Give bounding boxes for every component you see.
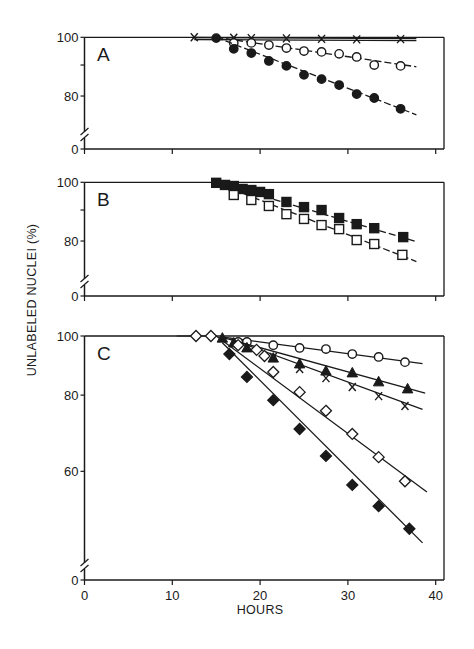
- data-point: [264, 201, 273, 210]
- x-tick-label: 30: [341, 588, 355, 603]
- data-point: [224, 349, 235, 360]
- data-point: [282, 44, 290, 52]
- y-tick-label: 100: [57, 30, 79, 45]
- data-point: [396, 105, 404, 113]
- data-point: [264, 190, 273, 199]
- data-point: [370, 94, 378, 102]
- x-tick-label: 40: [428, 588, 442, 603]
- x-tick-label: 20: [253, 588, 267, 603]
- data-point: [401, 358, 409, 366]
- series-open-diamond: [177, 331, 427, 492]
- data-point: [317, 221, 326, 230]
- data-point: [370, 224, 379, 233]
- data-point: [374, 353, 382, 361]
- data-point: [241, 371, 252, 382]
- data-point: [347, 428, 358, 439]
- y-tick-label: 100: [57, 175, 79, 190]
- data-point: [205, 331, 216, 342]
- data-point: [347, 479, 358, 490]
- data-point: [335, 81, 343, 89]
- data-point: [335, 225, 344, 234]
- data-point: [229, 190, 238, 199]
- data-point: [396, 62, 404, 70]
- y-tick-label: 100: [57, 329, 79, 344]
- series-open-circle: [216, 37, 416, 70]
- y-tick-label: 0: [71, 142, 78, 157]
- data-point: [402, 383, 412, 393]
- panel-b: 100800B: [57, 175, 444, 304]
- data-point: [294, 387, 305, 398]
- panel-letter: A: [97, 44, 110, 65]
- data-point: [230, 45, 238, 53]
- data-point: [300, 214, 309, 223]
- data-point: [212, 34, 220, 42]
- data-point: [247, 195, 256, 204]
- y-tick-label: 0: [71, 573, 78, 588]
- series-filled-circle: [212, 34, 416, 115]
- panel-letter: C: [97, 343, 111, 364]
- data-point: [247, 39, 255, 47]
- fit-line: [216, 37, 416, 114]
- data-point: [268, 395, 279, 406]
- data-point: [399, 233, 408, 242]
- data-point: [295, 344, 303, 352]
- x-tick-label: 10: [165, 588, 179, 603]
- y-tick-label: 80: [64, 234, 78, 249]
- data-point: [191, 331, 202, 342]
- data-point: [247, 49, 255, 57]
- data-point: [335, 214, 344, 223]
- data-point: [317, 75, 325, 83]
- data-point: [247, 186, 256, 195]
- data-point: [318, 35, 325, 43]
- data-point: [265, 41, 273, 49]
- cut-off-caption: [30, 640, 470, 649]
- y-tick-label: 0: [71, 289, 78, 304]
- y-tick-label: 60: [64, 464, 78, 479]
- panel-c: 10080600010203040C: [57, 329, 444, 604]
- data-point: [282, 210, 291, 219]
- data-point: [256, 187, 265, 196]
- data-point: [335, 50, 343, 58]
- data-point: [322, 345, 330, 353]
- data-point: [300, 47, 308, 55]
- data-point: [370, 61, 378, 69]
- data-point: [300, 203, 309, 212]
- data-point: [352, 53, 360, 61]
- figure: 100800A100800B10080600010203040CHOURSUNL…: [0, 0, 474, 649]
- panel-a: 100800A: [57, 30, 444, 157]
- series-x: [191, 33, 417, 43]
- data-point: [282, 197, 291, 206]
- data-point: [282, 62, 290, 70]
- data-point: [265, 57, 273, 65]
- data-point: [300, 71, 308, 79]
- data-point: [348, 350, 356, 358]
- y-tick-label: 80: [64, 388, 78, 403]
- x-axis-title: HOURS: [237, 603, 284, 617]
- data-point: [320, 450, 331, 461]
- data-point: [294, 423, 305, 434]
- data-point: [370, 240, 379, 249]
- data-point: [212, 178, 221, 187]
- data-point: [353, 35, 360, 43]
- y-axis-title: UNLABELED NUCLEI (%): [25, 224, 39, 377]
- data-point: [399, 476, 410, 487]
- panel-letter: B: [97, 189, 110, 210]
- fit-line: [216, 37, 416, 66]
- series-open-square: [225, 186, 416, 261]
- data-point: [317, 206, 326, 215]
- semi-log-chart: 100800A100800B10080600010203040CHOURSUNL…: [0, 0, 474, 649]
- y-tick-label: 80: [64, 89, 78, 104]
- data-point: [398, 250, 407, 259]
- data-point: [269, 341, 277, 349]
- series-filled-square: [212, 178, 417, 241]
- data-point: [352, 220, 361, 229]
- data-point: [352, 90, 360, 98]
- fit-line: [194, 40, 416, 41]
- x-tick-label: 0: [81, 588, 88, 603]
- data-point: [317, 48, 325, 56]
- data-point: [352, 236, 361, 245]
